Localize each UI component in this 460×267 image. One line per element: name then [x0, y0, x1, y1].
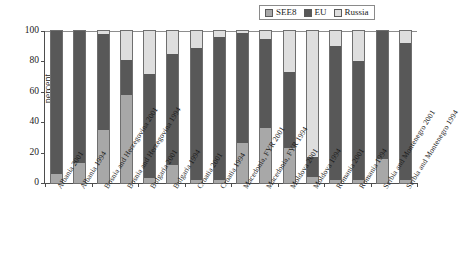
- bar-segment-russia: [191, 31, 202, 48]
- legend-label-eu: EU: [315, 8, 327, 17]
- y-tick-label: 0: [34, 178, 39, 188]
- x-tick: [138, 183, 139, 187]
- bar-segment-russia: [167, 31, 178, 54]
- x-tick: [417, 183, 418, 187]
- y-tick: [41, 61, 45, 62]
- x-tick: [371, 183, 372, 187]
- bar-stack[interactable]: [51, 31, 62, 183]
- bar-segment-russia: [121, 31, 132, 60]
- legend-entry-russia: Russia: [334, 8, 369, 17]
- legend-swatch-eu-icon: [304, 9, 312, 17]
- bar-segment-russia: [260, 31, 271, 39]
- bar-segment-eu: [98, 34, 109, 130]
- y-tick-label: 100: [25, 26, 39, 36]
- bar-segment-russia: [284, 31, 295, 72]
- bar-segment-eu: [51, 31, 62, 174]
- legend-swatch-russia-icon: [334, 9, 342, 17]
- bar-segment-eu: [377, 31, 388, 159]
- x-tick: [278, 183, 279, 187]
- legend-swatch-see8-icon: [265, 9, 273, 17]
- legend-label-russia: Russia: [345, 8, 369, 17]
- y-tick-label: 20: [30, 148, 40, 158]
- bar-segment-eu: [284, 72, 295, 148]
- bar-segment-eu: [260, 39, 271, 129]
- x-tick: [92, 183, 93, 187]
- y-tick-label: 40: [30, 117, 40, 127]
- legend-label-see8: SEE8: [276, 8, 297, 17]
- x-tick: [231, 183, 232, 187]
- bar-segment-russia: [330, 31, 341, 46]
- x-tick: [45, 183, 46, 187]
- chart-legend: SEE8 EU Russia: [259, 5, 375, 20]
- bar-segment-eu: [121, 60, 132, 95]
- y-tick: [41, 31, 45, 32]
- x-tick: [324, 183, 325, 187]
- legend-entry-see8: SEE8: [265, 8, 297, 17]
- y-tick: [41, 153, 45, 154]
- bar-segment-russia: [307, 31, 318, 157]
- x-tick: [185, 183, 186, 187]
- y-tick: [41, 122, 45, 123]
- y-tick-label: 80: [30, 57, 40, 67]
- legend-entry-eu: EU: [304, 8, 327, 17]
- y-tick-label: 60: [30, 87, 40, 97]
- bar-segment-eu: [74, 31, 85, 163]
- bar-segment-russia: [144, 31, 155, 74]
- y-tick: [41, 92, 45, 93]
- bar-segment-eu: [237, 33, 248, 144]
- bar-segment-russia: [353, 31, 364, 61]
- bar-segment-russia: [400, 31, 411, 43]
